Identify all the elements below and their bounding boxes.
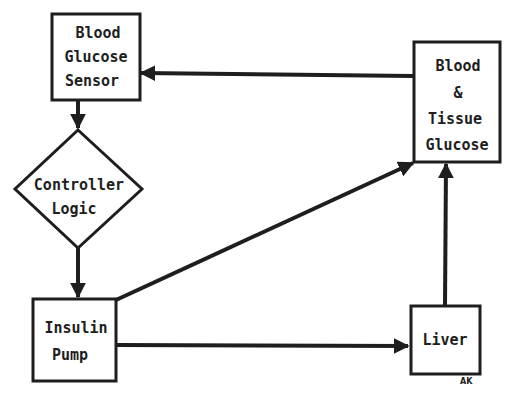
- liver-label: Liver: [422, 331, 467, 349]
- edge-tissue-to-sensor: [141, 73, 413, 76]
- edge-pump-to-tissue: [116, 163, 413, 300]
- node-blood-glucose-sensor: Blood Glucose Sensor: [52, 14, 140, 100]
- pump-label-line-2: Pump: [52, 346, 88, 364]
- edges: [78, 73, 446, 346]
- edge-pump-to-liver: [116, 345, 408, 346]
- tissue-label-line-4: Glucose: [425, 136, 488, 154]
- tissue-label-line-1: Blood: [435, 57, 480, 75]
- controller-label-line-1: Controller: [34, 176, 124, 194]
- node-blood-tissue-glucose: Blood & Tissue Glucose: [414, 42, 500, 162]
- node-insulin-pump: Insulin Pump: [33, 299, 116, 381]
- diagram-canvas: Blood Glucose Sensor Controller Logic In…: [0, 0, 517, 393]
- author-initials: AK: [460, 377, 473, 386]
- controller-label-line-2: Logic: [51, 200, 96, 218]
- tissue-label-line-2: &: [453, 84, 463, 102]
- node-controller-logic: Controller Logic: [15, 130, 142, 248]
- sensor-label-line-1: Blood: [75, 24, 120, 42]
- edge-liver-to-tissue: [445, 164, 446, 306]
- tissue-label-line-3: Tissue: [428, 110, 482, 128]
- node-liver: Liver: [411, 306, 480, 374]
- pump-label-line-1: Insulin: [44, 319, 107, 337]
- sensor-label-line-3: Sensor: [65, 72, 119, 90]
- sensor-label-line-2: Glucose: [64, 48, 127, 66]
